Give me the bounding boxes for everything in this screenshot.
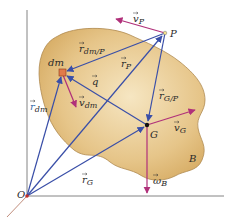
label-r-g: rG <box>82 174 94 187</box>
label-o: O <box>17 189 25 200</box>
label-dm: dm <box>48 57 64 68</box>
label-p: P <box>169 28 177 39</box>
dm-marker <box>59 69 66 76</box>
label-g: G <box>150 129 158 140</box>
origin-marker <box>25 194 29 198</box>
label-body-b: B <box>188 153 196 164</box>
label-q: q <box>92 76 98 87</box>
kinematics-diagram: dm P G O B rdm rdm/P rP rG/P q rG vP <box>0 0 228 219</box>
point-p-marker <box>163 31 167 35</box>
rigid-body-b <box>39 28 205 180</box>
point-g-marker <box>145 123 149 127</box>
